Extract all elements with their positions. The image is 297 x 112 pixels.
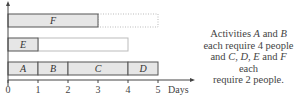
activity-label-e: E xyxy=(19,39,26,50)
activity-label-f: F xyxy=(49,15,57,26)
note-text: each xyxy=(239,63,258,74)
note-activity-d: D xyxy=(240,51,248,62)
x-tick-label: 4 xyxy=(126,84,131,95)
activity-label-b: B xyxy=(50,63,56,74)
x-axis-arrow-icon xyxy=(190,78,195,82)
x-tick-label: 1 xyxy=(36,84,41,95)
x-axis-label: Days xyxy=(168,84,189,95)
float-box xyxy=(38,38,128,51)
note-text: require 2 people. xyxy=(213,74,284,85)
y-axis-arrow-icon xyxy=(6,1,10,6)
note-text: each require 4 people xyxy=(203,40,293,51)
activity-label-c: C xyxy=(95,63,102,74)
note-activity-b: B xyxy=(280,28,286,39)
x-tick-label: 2 xyxy=(66,84,71,95)
activity-label-a: A xyxy=(19,63,27,74)
note-text: and xyxy=(260,28,280,39)
activity-label-d: D xyxy=(138,63,147,74)
note-text: and xyxy=(210,51,228,62)
note-text: and xyxy=(260,51,280,62)
note-activity-f: F xyxy=(280,51,286,62)
note-text: Activities xyxy=(210,28,253,39)
x-tick-label: 5 xyxy=(156,84,161,95)
float-box xyxy=(98,14,158,27)
resource-note: Activities A and B each require 4 people… xyxy=(200,28,297,86)
x-tick-label: 3 xyxy=(96,84,101,95)
x-tick-label: 0 xyxy=(6,84,11,95)
